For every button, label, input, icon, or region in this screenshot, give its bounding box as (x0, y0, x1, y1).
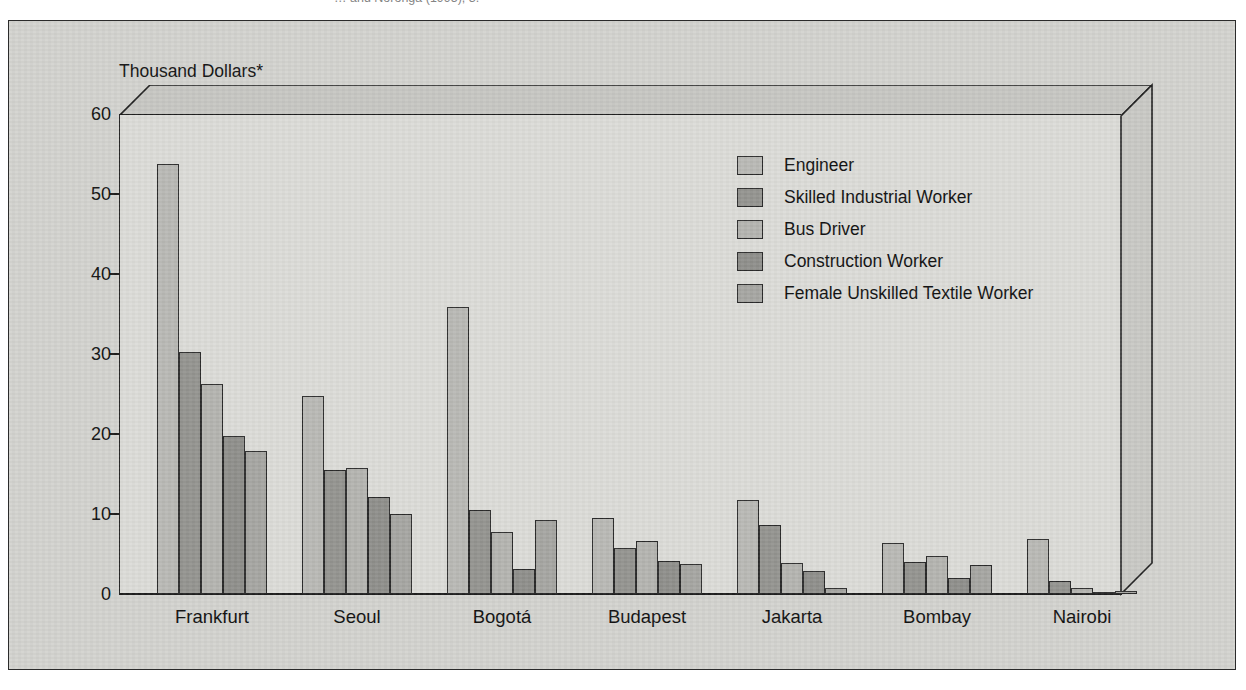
bars-layer: FrankfurtSeoulBogotáBudapestJakartaBomba… (9, 21, 1237, 671)
bar (535, 520, 557, 594)
chart-figure-frame: Thousand Dollars* 0102030405060 Frankfur… (8, 20, 1236, 670)
legend-row: Skilled Industrial Worker (737, 181, 1033, 213)
x-axis-category-label: Seoul (333, 606, 380, 628)
bar (781, 563, 803, 594)
page-caption-strip: … and Noronga (1995), 3. (0, 0, 1246, 14)
bar (223, 436, 245, 594)
bar (948, 578, 970, 594)
bar (447, 307, 469, 594)
page-caption-text: … and Noronga (1995), 3. (334, 0, 479, 5)
bar (368, 497, 390, 594)
bar (157, 164, 179, 594)
legend-label: Bus Driver (784, 219, 866, 240)
bar (759, 525, 781, 594)
legend-label: Construction Worker (784, 251, 943, 272)
bar (926, 556, 948, 594)
x-axis-category-label: Bombay (903, 606, 971, 628)
legend-swatch (737, 252, 763, 271)
legend-row: Female Unskilled Textile Worker (737, 277, 1033, 309)
x-axis-category-label: Budapest (608, 606, 686, 628)
legend-swatch (737, 284, 763, 303)
bar (390, 514, 412, 594)
bar (302, 396, 324, 594)
x-axis-category-label: Jakarta (762, 606, 823, 628)
legend-row: Engineer (737, 149, 1033, 181)
bar (1027, 539, 1049, 594)
legend-label: Skilled Industrial Worker (784, 187, 972, 208)
bar (904, 562, 926, 594)
legend-label: Engineer (784, 155, 854, 176)
bar (592, 518, 614, 594)
x-axis-category-label: Nairobi (1053, 606, 1112, 628)
bar (324, 470, 346, 594)
bar (658, 561, 680, 594)
bar (614, 548, 636, 594)
bar (513, 569, 535, 594)
legend-swatch (737, 188, 763, 207)
bar (680, 564, 702, 594)
bar (970, 565, 992, 594)
bar (803, 571, 825, 594)
bar (825, 588, 847, 594)
bar (737, 500, 759, 594)
bar (636, 541, 658, 594)
chart-legend: EngineerSkilled Industrial WorkerBus Dri… (737, 149, 1033, 309)
bar (201, 384, 223, 594)
legend-swatch (737, 220, 763, 239)
bar (346, 468, 368, 594)
bar (179, 352, 201, 594)
bar (245, 451, 267, 594)
bar (469, 510, 491, 594)
bar (1093, 592, 1115, 594)
bar (1071, 588, 1093, 594)
legend-row: Bus Driver (737, 213, 1033, 245)
x-axis-category-label: Bogotá (473, 606, 532, 628)
figure-page: … and Noronga (1995), 3. Thousand Dollar… (0, 0, 1246, 690)
legend-row: Construction Worker (737, 245, 1033, 277)
bar (882, 543, 904, 594)
bar (1115, 591, 1137, 594)
legend-swatch (737, 156, 763, 175)
bar (491, 532, 513, 594)
x-axis-category-label: Frankfurt (175, 606, 249, 628)
bar (1049, 581, 1071, 594)
legend-label: Female Unskilled Textile Worker (784, 283, 1033, 304)
